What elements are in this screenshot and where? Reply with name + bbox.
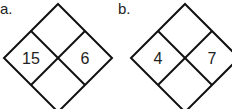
diagram-b-right-value: 7 <box>208 50 217 68</box>
diagram-b-label: b. <box>118 0 131 17</box>
diagram-a-left-value: 15 <box>22 50 40 68</box>
diagram-b-left-value: 4 <box>154 50 163 68</box>
diagram-a-label: a. <box>0 0 13 17</box>
diagram-a-right-value: 6 <box>81 50 90 68</box>
